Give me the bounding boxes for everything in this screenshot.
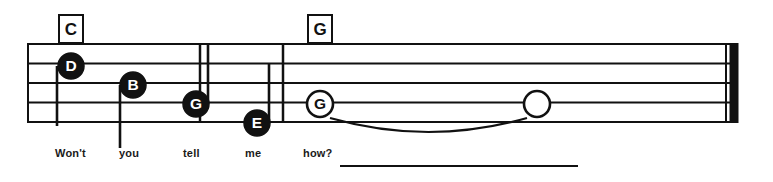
lyric-syllable-5: how? (303, 147, 333, 159)
note-6-head (524, 91, 550, 117)
note-2-b-head: B (120, 72, 146, 98)
chord-symbol-c: C (58, 14, 84, 44)
music-staff-sheet: DBGEG CG Won'tyoutellmehow? (0, 0, 773, 182)
note-4-e-head: E (244, 110, 270, 136)
note-5-g-letter: G (314, 95, 326, 112)
note-heads: DBGEG (58, 53, 550, 136)
note-2-b-letter: B (127, 76, 138, 93)
chord-symbol-g: G (307, 14, 333, 44)
lyric-syllable-2: you (119, 147, 139, 159)
lyric-syllable-3: tell (183, 147, 200, 159)
note-1-d-head: D (58, 53, 84, 79)
note-5-g-head: G (307, 91, 333, 117)
note-3-g-head: G (183, 91, 209, 117)
note-6-circle (524, 91, 550, 117)
note-4-e-letter: E (252, 114, 262, 131)
tie-curve (330, 118, 527, 132)
note-1-d-letter: D (65, 57, 76, 74)
tie-slur (330, 118, 527, 132)
lyric-syllable-4: me (245, 147, 261, 159)
note-3-g-letter: G (190, 95, 202, 112)
notation-canvas: DBGEG (0, 0, 773, 182)
note-stems (57, 44, 269, 148)
lyric-syllable-1: Won't (55, 147, 86, 159)
